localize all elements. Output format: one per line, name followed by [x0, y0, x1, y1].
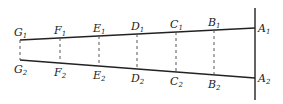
label-a2: A2	[257, 72, 271, 86]
label-d2: D2	[130, 72, 145, 86]
label-d1: D1	[130, 20, 144, 34]
label-g1: G1	[14, 26, 27, 40]
label-c1: C1	[170, 18, 183, 32]
label-e1: E1	[92, 22, 106, 36]
label-f2: F2	[53, 66, 67, 80]
label-c2: C2	[170, 75, 183, 89]
label-b1: B1	[207, 16, 221, 30]
label-g2: G2	[14, 63, 28, 77]
label-e2: E2	[92, 69, 106, 83]
label-b2: B2	[207, 78, 221, 92]
geometry-diagram: G1G2F1F2E1E2D1D2C1C2B1B2A1A2	[0, 0, 283, 104]
label-a1: A1	[257, 22, 270, 36]
label-f1: F1	[53, 24, 66, 38]
